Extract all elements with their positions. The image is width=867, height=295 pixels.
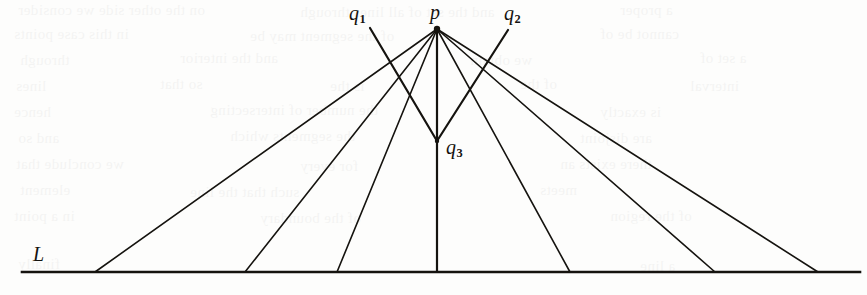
- q1-q2-to-q3-segments-group: [370, 28, 508, 141]
- subscript: 1: [360, 12, 366, 26]
- segment-q2-to-q3: [437, 30, 508, 141]
- label-p: p: [430, 1, 440, 24]
- label-line-L: L: [33, 243, 44, 266]
- label-q3: q3: [446, 136, 463, 161]
- ray-p-to-foot-2: [245, 29, 437, 272]
- label-q1: q1: [349, 2, 366, 27]
- ray-p-to-foot-7: [437, 29, 818, 272]
- point-p-marker: [434, 26, 440, 32]
- subscript: 3: [457, 146, 463, 160]
- label-q2: q2: [504, 2, 521, 27]
- ray-p-to-foot-6: [437, 29, 715, 272]
- ray-p-to-foot-1: [95, 29, 437, 272]
- subscript: 2: [515, 12, 521, 26]
- segment-q1-to-q3: [370, 28, 437, 141]
- geometry-diagram: [0, 0, 867, 295]
- figure-container: on the other side we considerand the set…: [0, 0, 867, 295]
- point-q3-marker: [435, 139, 439, 143]
